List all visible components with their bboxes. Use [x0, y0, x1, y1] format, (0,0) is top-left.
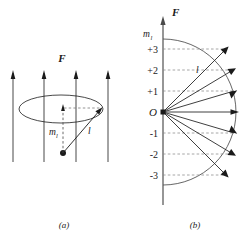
panel-b-quantum-number-label: m l: [143, 29, 153, 41]
projection-label-m: m: [49, 127, 56, 137]
projection-arrowhead-icon: [61, 104, 65, 111]
level-label: -3: [150, 170, 158, 181]
panel-a-projection-label: m l: [49, 127, 58, 139]
field-line-arrowheads: [11, 70, 111, 79]
angular-momentum-vector: [63, 110, 100, 153]
level-label: +1: [147, 86, 158, 97]
quantum-number-sub: l: [151, 34, 153, 41]
arrowhead-icon: [228, 68, 237, 75]
arrowhead-icon: [74, 70, 79, 79]
panel-a-caption: (a): [44, 220, 84, 230]
panel-b-axis-label: F: [171, 6, 180, 18]
momentum-vectors: [163, 49, 236, 175]
panel-a-vector-label: l: [88, 126, 91, 136]
level-label: -2: [150, 149, 158, 160]
level-label: -1: [150, 128, 158, 139]
arrowhead-icon: [106, 70, 111, 79]
arrowhead-icon: [229, 126, 237, 134]
arrowhead-icon: [229, 90, 237, 98]
panel-a-field-label: F: [57, 52, 66, 64]
level-label: +2: [147, 65, 158, 76]
quantum-number-m: m: [143, 29, 150, 39]
arrowhead-icon: [42, 70, 47, 79]
arrowhead-icon: [11, 70, 16, 79]
panel-b-origin-label: O: [149, 106, 157, 118]
panel-b: F: [143, 6, 239, 205]
projection-label-sub: l: [56, 132, 58, 139]
panel-b-vector-label: l: [196, 65, 199, 75]
level-label: +3: [147, 44, 158, 55]
arrowhead-icon: [228, 149, 237, 156]
axis-arrowhead-icon: [160, 16, 165, 25]
physics-figure: F m l l F: [0, 0, 249, 246]
precession-circle: [19, 95, 103, 123]
arrowhead-icon: [231, 109, 240, 114]
origin-point: [161, 110, 166, 115]
panel-a: F m l l: [11, 52, 111, 162]
panel-b-caption: (b): [175, 220, 215, 230]
